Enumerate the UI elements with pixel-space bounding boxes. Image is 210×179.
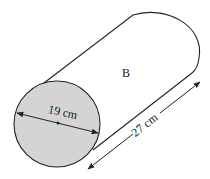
length-arrow-b bbox=[160, 82, 200, 113]
length-label: 27 cm bbox=[129, 110, 162, 140]
face-label: B bbox=[122, 66, 130, 80]
cylinder-diagram: 19 cm 27 cm B bbox=[0, 0, 210, 179]
center-dot bbox=[57, 122, 60, 125]
